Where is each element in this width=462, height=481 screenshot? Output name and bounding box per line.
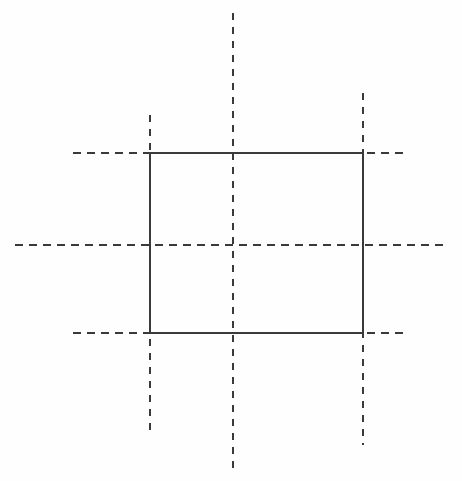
drawing-surface <box>0 0 462 481</box>
drawing-background <box>0 0 462 481</box>
technical-drawing-canvas <box>0 0 462 481</box>
